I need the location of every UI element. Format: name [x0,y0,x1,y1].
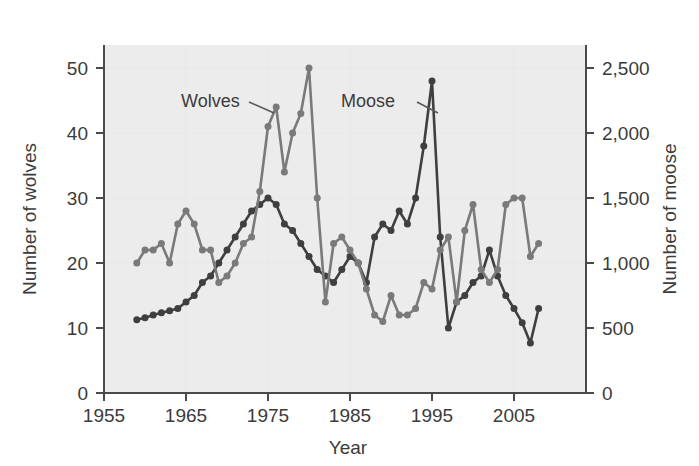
data-point [519,319,526,326]
y-right-tick-label-2000: 2,000 [602,123,650,144]
y-axis-right-ticks [586,68,594,393]
data-point [166,260,173,267]
data-point [256,188,263,195]
y-left-tick-label-10: 10 [67,318,88,339]
data-point [519,195,526,202]
x-tick-label-1965: 1965 [165,405,207,426]
data-point [199,279,206,286]
data-point [404,312,411,319]
data-point [207,273,214,280]
data-point [445,234,452,241]
x-tick-label-1955: 1955 [83,405,125,426]
data-point [273,104,280,111]
data-point [486,247,493,254]
data-point [470,201,477,208]
data-point [453,299,460,306]
data-point [150,312,157,319]
data-point [297,240,304,247]
data-point [511,305,518,312]
data-point [470,279,477,286]
data-point [166,307,173,314]
data-point [289,130,296,137]
data-point [273,201,280,208]
data-point [511,195,518,202]
data-point [396,208,403,215]
data-point [371,234,378,241]
x-axis-title: Year [329,437,368,458]
data-point [265,123,272,130]
x-axis-ticks [104,393,514,401]
y-left-tick-label-50: 50 [67,58,88,79]
data-point [486,279,493,286]
data-point [429,78,436,85]
y-left-tick-label-20: 20 [67,253,88,274]
y-right-tick-label-1500: 1,500 [602,188,650,209]
data-point [142,314,149,321]
data-point [215,279,222,286]
data-point [133,260,140,267]
data-point [150,247,157,254]
data-point [527,339,534,346]
data-point [338,234,345,241]
data-point [355,260,362,267]
data-point [224,247,231,254]
data-point [420,143,427,150]
data-point [502,292,509,299]
data-point [461,227,468,234]
data-point [379,221,386,228]
data-point [158,309,165,316]
data-point [437,247,444,254]
series-label-wolves: Wolves [181,91,240,111]
data-point [461,292,468,299]
data-point [502,201,509,208]
data-point [281,221,288,228]
chart-canvas: 50 40 30 20 10 0 2,500 2,000 1,500 1,000… [0,0,699,466]
data-point [265,195,272,202]
data-point [183,208,190,215]
y-right-tick-label-1000: 1,000 [602,253,650,274]
data-point [429,286,436,293]
data-point [445,325,452,332]
data-point [199,247,206,254]
x-tick-label-1985: 1985 [329,405,371,426]
data-point [314,195,321,202]
data-point [330,279,337,286]
data-point [347,247,354,254]
data-point [224,273,231,280]
data-point [314,266,321,273]
data-point [371,312,378,319]
data-point [363,286,370,293]
data-point [437,234,444,241]
data-point [388,227,395,234]
data-point [158,240,165,247]
data-point [281,169,288,176]
data-point [207,247,214,254]
data-point [306,253,313,260]
x-tick-label-1995: 1995 [411,405,453,426]
y-left-tick-label-40: 40 [67,123,88,144]
data-point [412,195,419,202]
wolf-moose-population-figure: 50 40 30 20 10 0 2,500 2,000 1,500 1,000… [0,0,699,466]
y-axis-right-title: Number of moose [659,143,680,294]
data-point [232,260,239,267]
x-tick-label-2005: 2005 [493,405,535,426]
data-point [191,221,198,228]
data-point [240,221,247,228]
y-right-tick-label-2500: 2,500 [602,58,650,79]
y-left-tick-label-0: 0 [77,383,88,404]
data-point [478,266,485,273]
data-point [232,234,239,241]
y-axis-left-title: Number of wolves [19,143,40,295]
y-right-tick-label-0: 0 [602,383,613,404]
data-point [174,305,181,312]
data-point [133,316,140,323]
data-point [183,299,190,306]
data-point [248,234,255,241]
data-point [289,227,296,234]
data-point [248,208,255,215]
data-point [142,247,149,254]
series-label-moose: Moose [341,91,395,111]
data-point [396,312,403,319]
data-point [379,318,386,325]
data-point [535,240,542,247]
